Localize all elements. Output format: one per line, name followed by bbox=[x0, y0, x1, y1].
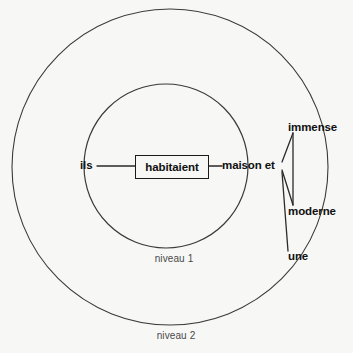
node-une: une bbox=[288, 251, 308, 263]
node-maison-et: maison et bbox=[222, 160, 275, 172]
diagram-canvas: ils habitaient maison et immense moderne… bbox=[0, 0, 353, 353]
edge-group bbox=[97, 133, 293, 251]
node-immense: immense bbox=[288, 122, 337, 134]
edge-maison-immense bbox=[282, 133, 293, 162]
node-ils: ils bbox=[80, 160, 93, 172]
node-moderne: moderne bbox=[288, 206, 336, 218]
node-habitaient: habitaient bbox=[135, 155, 209, 179]
ring-label-niveau-2: niveau 2 bbox=[157, 331, 196, 341]
ring-label-niveau-1: niveau 1 bbox=[155, 254, 194, 264]
